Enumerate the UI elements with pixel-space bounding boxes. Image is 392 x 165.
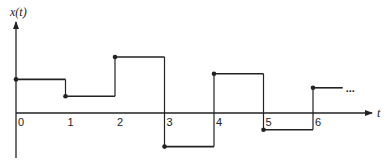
step-start-dot [212, 72, 217, 77]
step-signal-chart: x(t) t 0123456 ... [0, 0, 392, 165]
step-start-dot [162, 144, 167, 149]
step-signal [14, 55, 343, 149]
step-start-dot [63, 94, 68, 99]
x-tick-1: 1 [68, 116, 74, 128]
x-tick-3: 3 [167, 116, 173, 128]
x-tick-5: 5 [266, 116, 272, 128]
x-tick-2: 2 [117, 116, 123, 128]
step-start-dot [113, 55, 118, 60]
x-tick-6: 6 [315, 116, 321, 128]
x-tick-4: 4 [216, 116, 222, 128]
x-tick-0: 0 [18, 116, 24, 128]
step-start-dot [14, 77, 19, 82]
t-axis-label: t [377, 106, 381, 120]
step-start-dot [261, 128, 266, 133]
continuation-ellipsis: ... [346, 82, 355, 94]
step-start-dot [311, 86, 316, 91]
y-axis-label: x(t) [9, 5, 27, 19]
x-tick-labels: 0123456 [18, 116, 321, 128]
